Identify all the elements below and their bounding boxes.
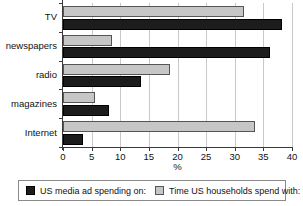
legend-swatch-gray-icon <box>155 186 164 195</box>
chart-legend: US media ad spending on: Time US househo… <box>18 180 286 201</box>
bar-internet-black <box>63 134 83 145</box>
legend-swatch-black-icon <box>26 186 35 195</box>
bar-chart: TVnewspapersradiomagazinesInternet 05101… <box>0 0 303 206</box>
bar-internet-gray <box>63 121 255 132</box>
x-axis-tick-label: 40 <box>287 152 298 162</box>
x-axis-tick-label: 10 <box>115 152 126 162</box>
y-axis-label-tv: TV <box>0 12 57 22</box>
bar-tv-gray <box>63 6 244 17</box>
bar-magazines-gray <box>63 92 95 103</box>
legend-entry-household-time: Time US households spend with: <box>155 186 300 196</box>
y-axis-tick-mark <box>59 3 63 4</box>
y-axis-label-magazines: magazines <box>0 99 57 109</box>
bar-newspapers-black <box>63 47 270 58</box>
y-axis-category-labels: TVnewspapersradiomagazinesInternet <box>0 3 60 147</box>
plot-area-wrapper: TVnewspapersradiomagazinesInternet 05101… <box>0 0 303 160</box>
plot-area: 0510152025303540 <box>63 3 292 147</box>
bar-magazines-black <box>63 105 109 116</box>
y-axis-tick-mark <box>59 118 63 119</box>
x-axis-title: % <box>63 162 292 172</box>
bar-radio-gray <box>63 64 170 75</box>
y-axis-tick-mark <box>59 32 63 33</box>
x-axis-tick-label: 15 <box>144 152 155 162</box>
y-axis-label-radio: radio <box>0 70 57 80</box>
legend-entry-ad-spending: US media ad spending on: <box>26 186 146 196</box>
y-axis-tick-mark <box>59 89 63 90</box>
y-axis-label-newspapers: newspapers <box>0 41 57 51</box>
x-axis-tick-label: 5 <box>89 152 94 162</box>
legend-label-household-time: Time US households spend with: <box>169 186 300 196</box>
x-axis-line <box>59 147 293 148</box>
bar-newspapers-gray <box>63 35 112 46</box>
y-axis-label-internet: Internet <box>0 128 57 138</box>
bar-tv-black <box>63 19 282 30</box>
x-axis-tick-label: 30 <box>229 152 240 162</box>
x-axis-tick-label: 25 <box>201 152 212 162</box>
x-axis-tick-label: 35 <box>258 152 269 162</box>
y-axis-tick-mark <box>59 61 63 62</box>
x-axis-tick-label: 0 <box>60 152 65 162</box>
legend-label-ad-spending: US media ad spending on: <box>40 186 146 196</box>
gridline <box>292 3 293 147</box>
bar-radio-black <box>63 76 141 87</box>
